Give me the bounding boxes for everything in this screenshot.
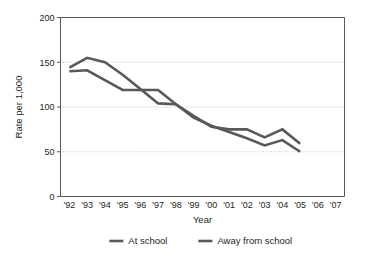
legend-label-away-from-school: Away from school bbox=[217, 235, 292, 246]
x-tick-label-05: '05 bbox=[294, 200, 306, 210]
x-tick-label-94: '94 bbox=[99, 200, 111, 210]
x-tick-label-95: '95 bbox=[117, 200, 129, 210]
x-tick-label-04: '04 bbox=[277, 200, 289, 210]
axis-labels-group: Rate per 1,000Year bbox=[13, 76, 212, 225]
series-group bbox=[69, 58, 300, 152]
x-axis-ticks: '92'93'94'95'96'97'98'99'00'01'02'03'04'… bbox=[64, 200, 342, 210]
y-axis-ticks: 050100150200 bbox=[39, 13, 60, 202]
y-tick-label-150: 150 bbox=[39, 58, 54, 68]
x-tick-label-03: '03 bbox=[259, 200, 271, 210]
x-tick-label-99: '99 bbox=[188, 200, 200, 210]
x-tick-label-02: '02 bbox=[241, 200, 253, 210]
x-tick-label-96: '96 bbox=[135, 200, 147, 210]
y-tick-label-50: 50 bbox=[44, 147, 54, 157]
x-axis-title: Year bbox=[193, 214, 212, 225]
chart-canvas: 050100150200 '92'93'94'95'96'97'98'99'00… bbox=[0, 0, 369, 257]
line-chart: 050100150200 '92'93'94'95'96'97'98'99'00… bbox=[0, 0, 369, 257]
series-line-at-school bbox=[69, 70, 300, 143]
y-tick-label-100: 100 bbox=[39, 102, 54, 112]
y-tick-label-200: 200 bbox=[39, 13, 54, 23]
x-tick-label-01: '01 bbox=[223, 200, 235, 210]
chart-legend: At schoolAway from school bbox=[109, 235, 292, 246]
legend-label-at-school: At school bbox=[128, 235, 167, 246]
gridlines-group bbox=[61, 18, 345, 152]
x-tick-label-93: '93 bbox=[81, 200, 93, 210]
y-tick-label-0: 0 bbox=[49, 192, 54, 202]
x-tick-label-06: '06 bbox=[312, 200, 324, 210]
x-tick-label-07: '07 bbox=[330, 200, 342, 210]
x-tick-label-92: '92 bbox=[64, 200, 76, 210]
x-tick-label-00: '00 bbox=[206, 200, 218, 210]
x-tick-label-97: '97 bbox=[152, 200, 164, 210]
y-axis-title: Rate per 1,000 bbox=[13, 76, 24, 139]
x-tick-label-98: '98 bbox=[170, 200, 182, 210]
